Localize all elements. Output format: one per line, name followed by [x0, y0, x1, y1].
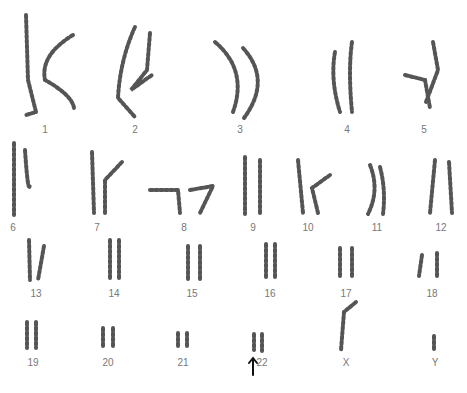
chromosome-label: 7	[94, 222, 100, 233]
chromosome-label: 14	[108, 288, 119, 299]
chromosome-label: 13	[30, 288, 41, 299]
chromosome-label: 9	[250, 222, 256, 233]
chromosome-label: X	[343, 357, 350, 368]
chromosome-label: 18	[426, 288, 437, 299]
chromosome-label: 10	[302, 222, 313, 233]
chromosome-label: 12	[435, 222, 446, 233]
chromosome-label: 21	[177, 357, 188, 368]
chromosome-label: 6	[10, 222, 16, 233]
chromosome-label: 2	[132, 124, 138, 135]
chromosome-label: 20	[102, 357, 113, 368]
karyotype-figure: 12345678910111213141516171819202122XY	[0, 0, 467, 393]
chromosome-label: 15	[186, 288, 197, 299]
chromosome-label: 4	[344, 124, 350, 135]
chromosome-label: 11	[372, 222, 382, 233]
chromosome-label: 19	[27, 357, 38, 368]
chromosome-label: 5	[421, 124, 427, 135]
chromosomes	[0, 0, 467, 393]
chromosome-label: Y	[432, 357, 439, 368]
chromosome-label: 17	[340, 288, 351, 299]
chromosome-label: 22	[256, 357, 267, 368]
chromosome-label: 8	[181, 222, 187, 233]
chromosome-label: 16	[264, 288, 275, 299]
chromosome-label: 1	[42, 124, 48, 135]
chromosome-label: 3	[237, 124, 243, 135]
